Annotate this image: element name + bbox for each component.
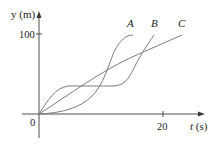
x-axis-label: t (s)	[190, 120, 208, 133]
origin-label: 0	[30, 117, 35, 128]
y-tick-label-100: 100	[19, 29, 35, 40]
x-axis-arrow-icon	[198, 112, 205, 117]
curve-label-b: B	[151, 17, 158, 29]
y-axis-arrow-icon	[37, 11, 42, 18]
curve-c	[39, 35, 182, 114]
curve-label-a: A	[126, 17, 134, 29]
x-axis-unit: (s)	[193, 120, 208, 133]
y-axis-label: y (m)	[11, 8, 35, 21]
curve-label-c: C	[178, 17, 186, 29]
x-tick-label-20: 20	[157, 121, 168, 132]
position-time-chart: y (m) 100 20 0 t (s) A B C	[0, 0, 222, 145]
curve-a	[39, 35, 133, 114]
